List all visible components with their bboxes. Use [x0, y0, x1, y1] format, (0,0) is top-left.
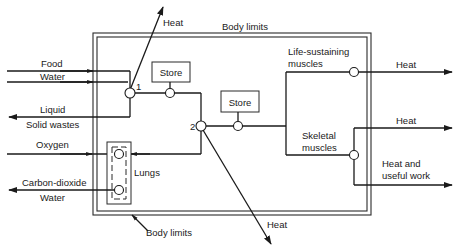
node-1 [125, 88, 135, 98]
skeletal-muscles-node [350, 151, 359, 160]
heat-bottom-label: Heat [267, 219, 287, 230]
heat-work-label-2: useful work [382, 170, 430, 181]
node-1-label: 1 [136, 81, 141, 92]
water-out-label: Water [40, 192, 65, 203]
life-muscles-node [350, 68, 359, 77]
life-muscles-label-2: muscles [288, 58, 323, 69]
node-2-label: 2 [190, 121, 195, 132]
body-limits-bottom-label: Body limits [146, 227, 192, 238]
water-label: Water [40, 71, 65, 82]
lungs-label: Lungs [134, 167, 160, 178]
solid-wastes-label: Solid wastes [26, 119, 80, 130]
store-2-label: Store [229, 97, 252, 108]
heat-life-label: Heat [396, 59, 416, 70]
store-1-label: Store [160, 67, 183, 78]
oxygen-label: Oxygen [36, 139, 69, 150]
life-muscles-label-1: Life-sustaining [288, 46, 349, 57]
lungs-oxygen-node [115, 150, 124, 159]
lungs-co2-node [115, 186, 124, 195]
heat-bottom-arrow [203, 130, 271, 244]
store-2-node [234, 122, 243, 131]
energy-flow-diagram: Body limits Body limits Food Water Liqui… [0, 0, 463, 249]
node-2 [196, 121, 206, 131]
heat-top-label: Heat [163, 17, 183, 28]
food-label: Food [41, 58, 63, 69]
liquid-label: Liquid [40, 104, 65, 115]
skeletal-muscles-label-1: Skeletal [302, 130, 336, 141]
carbon-dioxide-label: Carbon-dioxide [22, 177, 86, 188]
heat-skeletal-label: Heat [396, 115, 416, 126]
heat-work-label-1: Heat and [382, 158, 421, 169]
body-limits-frame [93, 33, 371, 215]
body-limits-top-label: Body limits [222, 21, 268, 32]
store-1-node [166, 89, 175, 98]
skeletal-muscles-label-2: muscles [302, 142, 337, 153]
